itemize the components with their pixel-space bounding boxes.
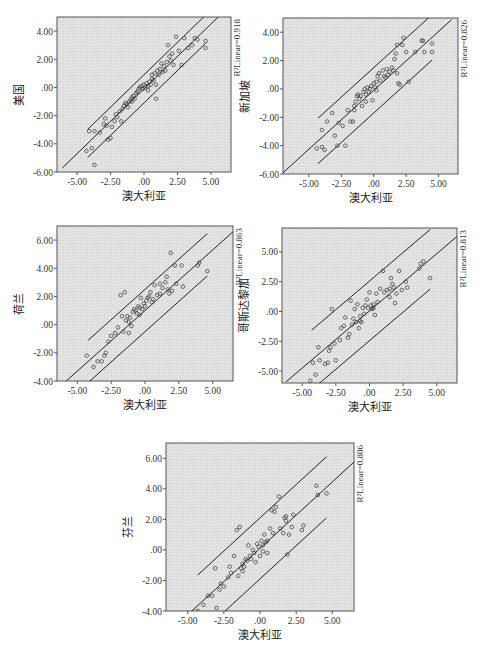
y-tick-label: -4.00 [142,607,162,617]
y-tick-label: -2.00 [142,576,162,586]
y-tick-label: 2.00 [145,515,162,525]
figure-caption [90,636,410,648]
plot-area [166,443,354,611]
x-tick-label: 5.00 [324,616,341,626]
y-tick-label: 4.00 [145,484,162,494]
scatter-chart-finland: -5.00-2.50.002.505.00-4.00-2.00.002.004.… [0,0,485,648]
x-tick-label: 2.50 [288,616,305,626]
y-tick-label: 6.00 [145,454,162,464]
r-squared-label: R²Linear=0.806 [355,445,365,503]
x-tick-label: -5.00 [178,616,198,626]
y-axis-label: 芬兰 [122,516,135,538]
y-tick-label: .00 [150,545,162,555]
x-tick-label: -2.50 [214,616,234,626]
x-tick-label: .00 [254,616,266,626]
